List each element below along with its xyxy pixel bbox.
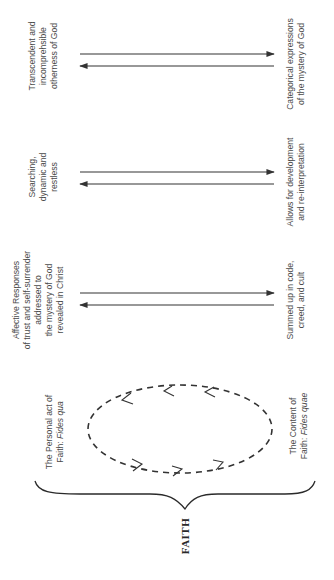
- label-fides-quae: Fides quae: [299, 393, 309, 436]
- label-line: Searching,: [27, 156, 37, 197]
- faith-diagram: Transcendent and incomprehsible othernes…: [0, 0, 334, 580]
- label-personal-act: The Personal act of Faith: Fides qua: [44, 394, 65, 469]
- label-transcendent: Transcendent and incomprehsible othernes…: [27, 21, 59, 90]
- label-line: of trust and self-surrender: [22, 251, 32, 350]
- arrow-pair-transcendent-categorical: [80, 54, 274, 66]
- label-line: and re-interpretation: [296, 143, 306, 221]
- label-affective-responses: Affective Responses of trust and self-su…: [11, 251, 65, 350]
- label-line: The Personal act of: [44, 394, 54, 469]
- curly-brace: [35, 481, 315, 509]
- dashed-ellipse: [88, 385, 272, 473]
- label-fides-qua: Fides qua: [55, 401, 65, 439]
- chevron-right-icon: [172, 466, 182, 476]
- label-line: restless: [49, 162, 59, 192]
- label-line: The Content of: [288, 397, 298, 454]
- label-line: Affective Responses: [11, 261, 21, 339]
- label-line: revealed in Christ: [55, 266, 65, 333]
- label-searching: Searching, dynamic and restless: [27, 152, 59, 201]
- chevron-left-icon: [164, 386, 174, 396]
- label-line: Faith: Fides quae: [299, 393, 309, 460]
- label-content-of-faith: The Content of Faith: Fides quae: [288, 393, 309, 460]
- label-line: the mystery of God: [44, 263, 54, 336]
- label-line: incomprehsible: [38, 27, 48, 85]
- label-line: otherness of God: [49, 23, 59, 89]
- label-categorical: Categorical expressions of the mystery o…: [285, 18, 306, 110]
- label-prefix: Faith:: [299, 435, 309, 459]
- faith-label: FAITH: [179, 518, 191, 555]
- label-line: creed, and cult: [296, 271, 306, 328]
- label-line: of the mystery of God: [296, 23, 306, 105]
- label-line: dynamic and: [38, 152, 48, 201]
- label-line: Categorical expressions: [285, 18, 295, 110]
- faith-cycle: [88, 385, 272, 476]
- chevron-left-icon: [122, 393, 133, 404]
- chevron-right-icon: [132, 459, 142, 471]
- arrow-pair-affective-summed: [80, 293, 274, 305]
- label-allows-development: Allows for development and re-interpreta…: [285, 137, 306, 226]
- label-line: Faith: Fides qua: [55, 401, 65, 463]
- label-line: Summed up in code,: [285, 261, 295, 340]
- faith-title: FAITH: [179, 518, 191, 555]
- label-line: addressed to: [33, 275, 43, 325]
- label-prefix: Faith:: [55, 439, 65, 463]
- arrow-pair-searching-development: [80, 172, 274, 184]
- label-line: Transcendent and: [27, 21, 37, 90]
- label-summed-up: Summed up in code, creed, and cult: [285, 261, 306, 340]
- label-line: Allows for development: [285, 137, 295, 226]
